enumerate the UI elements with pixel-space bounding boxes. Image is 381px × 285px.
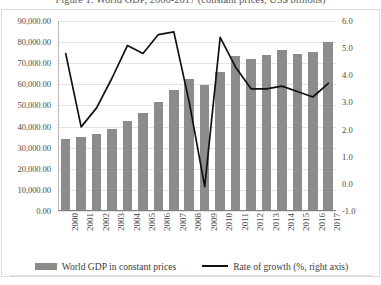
chart-frame: 0.0010,000.0020,000.0030,000.0040,000.00… [1, 9, 380, 277]
chart-legend: World GDP in constant prices Rate of gro… [2, 257, 380, 275]
y2-tick-label: 3.0 [342, 97, 353, 107]
x-tick-label: 2009 [209, 213, 219, 231]
legend-item-growth: Rate of growth (%, right axis) [202, 261, 348, 272]
y-tick-label: 10,000.00 [18, 185, 51, 195]
y-tick-label: 50,000.00 [18, 100, 51, 110]
x-tick-label: 2008 [193, 213, 203, 231]
y-tick-label: 60,000.00 [18, 79, 51, 89]
y-axis-left: 0.0010,000.0020,000.0030,000.0040,000.00… [2, 21, 54, 211]
y-tick-label: 40,000.00 [18, 122, 51, 132]
x-tick-label: 2003 [116, 213, 126, 231]
x-tick-label: 2004 [132, 213, 142, 231]
x-tick-label: 2010 [224, 213, 234, 231]
x-tick-label: 2014 [286, 213, 296, 231]
y-tick-label: 70,000.00 [18, 58, 51, 68]
growth-polyline [66, 32, 329, 187]
y2-tick-label: 1.0 [342, 152, 353, 162]
x-tick-label: 2016 [317, 213, 327, 231]
x-tick-label: 2015 [301, 213, 311, 231]
x-tick-label: 2002 [101, 213, 111, 231]
legend-label-gdp: World GDP in constant prices [62, 261, 177, 272]
y-tick-label: 90,000.00 [18, 16, 51, 26]
y2-tick-label: 4.0 [342, 70, 353, 80]
x-tick-label: 2007 [178, 213, 188, 231]
y-axis-right: -1.00.01.02.03.04.05.06.0 [338, 21, 378, 211]
y2-tick-label: 6.0 [342, 16, 353, 26]
y-tick-label: 20,000.00 [18, 164, 51, 174]
bar-swatch-icon [35, 263, 57, 270]
plot-area [58, 21, 336, 211]
y2-tick-label: -1.0 [342, 206, 356, 216]
legend-divider [10, 275, 373, 276]
x-tick-label: 2001 [85, 213, 95, 231]
y-tick-label: 30,000.00 [18, 143, 51, 153]
figure-caption: Figure 1: World GDP, 2000-2017 (constant… [0, 0, 381, 6]
gridline [58, 211, 336, 212]
x-tick-label: 2005 [147, 213, 157, 231]
x-tick-label: 2017 [332, 213, 342, 231]
y-tick-label: 80,000.00 [18, 37, 51, 47]
x-tick-label: 2011 [240, 213, 250, 231]
x-tick-label: 2012 [255, 213, 265, 231]
legend-label-growth: Rate of growth (%, right axis) [233, 261, 348, 272]
y-tick-label: 0.00 [36, 206, 51, 216]
x-tick-label: 2006 [162, 213, 172, 231]
y2-tick-label: 0.0 [342, 179, 353, 189]
line-series [58, 21, 336, 211]
line-swatch-icon [202, 265, 228, 267]
y2-tick-label: 2.0 [342, 125, 353, 135]
x-tick-label: 2013 [271, 213, 281, 231]
x-tick-label: 2000 [70, 213, 80, 231]
y2-tick-label: 5.0 [342, 43, 353, 53]
legend-item-gdp: World GDP in constant prices [35, 261, 177, 272]
figure-root: Figure 1: World GDP, 2000-2017 (constant… [0, 0, 381, 285]
x-axis-labels: 2000200120022003200420052006200720082009… [58, 213, 336, 251]
